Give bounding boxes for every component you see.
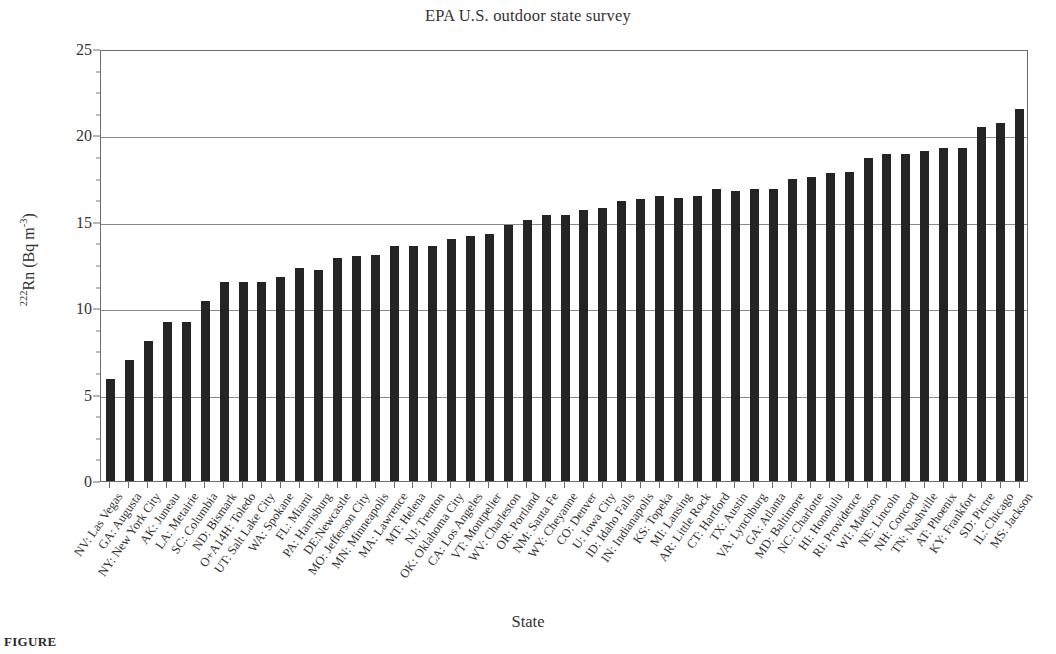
bar [712, 189, 721, 481]
y-axis-minor-tick [96, 71, 100, 72]
y-axis-label-wrapper: 222Rn (Bq m-3) [8, 150, 42, 390]
y-axis-tick [93, 136, 100, 137]
y-axis-minor-tick [96, 179, 100, 180]
y-axis-label-exponent: -3 [18, 219, 29, 228]
bar [1015, 109, 1024, 481]
bar [106, 379, 115, 481]
y-axis-minor-tick [96, 352, 100, 353]
bar [958, 148, 967, 482]
y-axis-tick [93, 395, 100, 396]
y-axis-minor-tick [96, 438, 100, 439]
bar [769, 189, 778, 481]
x-axis-tick-labels: NV: Las VegasGA: AugustaNY: New York Cit… [100, 490, 1028, 610]
x-axis-label: State [0, 612, 1056, 632]
bar [864, 158, 873, 481]
y-axis-minor-tick [96, 287, 100, 288]
y-axis-label: 222Rn (Bq m-3) [18, 140, 37, 380]
chart-figure: EPA U.S. outdoor state survey 222Rn (Bq … [0, 0, 1056, 654]
y-axis-minor-tick [96, 460, 100, 461]
y-axis-tick-label: 0 [46, 473, 92, 491]
plot-area [100, 50, 1028, 482]
y-axis-tick-label: 15 [46, 214, 92, 232]
y-axis-tick [93, 222, 100, 223]
bar [920, 151, 929, 481]
bar [996, 123, 1005, 481]
y-axis-minor-tick [96, 158, 100, 159]
y-axis-tick [93, 309, 100, 310]
bar-series [101, 51, 1027, 481]
y-axis-tick-label: 10 [46, 300, 92, 318]
y-axis-label-isotope: 222 [18, 290, 29, 306]
y-axis-tick [93, 50, 100, 51]
y-axis-label-base: Rn (Bq m [20, 227, 37, 290]
y-axis-tick-label: 5 [46, 387, 92, 405]
y-axis-tick [93, 482, 100, 483]
y-axis-minor-tick [96, 93, 100, 94]
bar [939, 148, 948, 482]
y-axis-minor-tick [96, 330, 100, 331]
y-axis-minor-tick [96, 201, 100, 202]
y-axis-minor-tick [96, 266, 100, 267]
y-axis-minor-tick [96, 114, 100, 115]
chart-title: EPA U.S. outdoor state survey [0, 6, 1056, 26]
y-axis-minor-tick [96, 374, 100, 375]
x-axis-tick [109, 482, 110, 488]
figure-caption: FIGURE [4, 634, 56, 650]
bar [977, 127, 986, 481]
y-axis-minor-tick [96, 244, 100, 245]
y-axis-minor-tick [96, 417, 100, 418]
bar [882, 154, 891, 481]
y-axis-tick-label: 25 [46, 41, 92, 59]
y-axis-label-suffix: ) [20, 213, 37, 218]
y-axis-tick-label: 20 [46, 127, 92, 145]
